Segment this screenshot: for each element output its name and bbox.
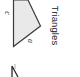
document-page: c a Triangles	[0, 0, 80, 77]
partial-figure-icon	[10, 64, 20, 77]
section-title: Triangles	[49, 3, 62, 47]
triangle-figure	[0, 0, 48, 50]
side-label-c: c	[3, 11, 11, 15]
section-title-text: Triangles	[50, 5, 61, 45]
side-label-a: a	[26, 39, 34, 43]
